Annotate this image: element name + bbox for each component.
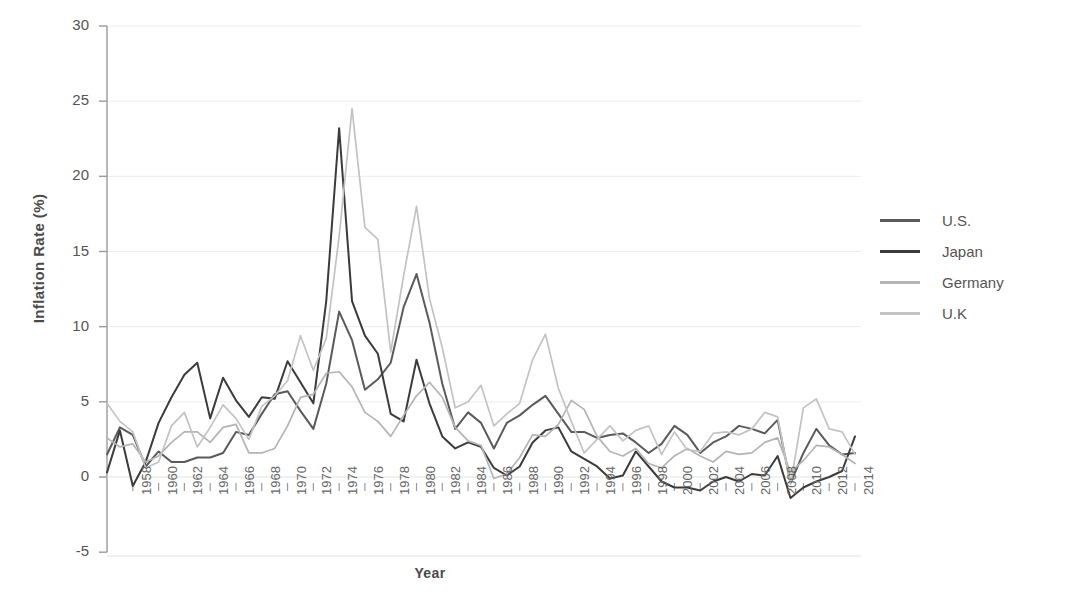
y-tick-label: -5 <box>49 542 89 559</box>
y-tick-label: 15 <box>49 242 89 259</box>
x-tick-label: 1974 <box>345 466 360 495</box>
chart-legend: U.S.JapanGermanyU.K <box>880 205 1004 329</box>
legend-item[interactable]: U.K <box>880 298 1004 329</box>
x-tick-label: 2004 <box>732 466 747 495</box>
x-tick-label: 1982 <box>448 466 463 495</box>
legend-item[interactable]: Germany <box>880 267 1004 298</box>
footer-caption <box>120 596 980 605</box>
x-tick-label: 2006 <box>758 466 773 495</box>
legend-item[interactable]: Japan <box>880 236 1004 267</box>
x-tick-label: 1992 <box>577 466 592 495</box>
legend-swatch-icon <box>880 250 920 253</box>
y-tick-label: 0 <box>49 467 89 484</box>
legend-swatch-icon <box>880 219 920 222</box>
x-tick-label: 1994 <box>603 466 618 495</box>
x-tick-label: 1960 <box>165 466 180 495</box>
x-tick-label: 1966 <box>242 466 257 495</box>
legend-label: Germany <box>942 274 1004 291</box>
x-tick-label: 1958 <box>139 466 154 495</box>
x-tick-label: 2014 <box>861 466 876 495</box>
x-tick-label: 1968 <box>268 466 283 495</box>
legend-label: U.S. <box>942 212 971 229</box>
legend-label: U.K <box>942 305 967 322</box>
x-tick-label: 1976 <box>371 466 386 495</box>
x-tick-label: 1990 <box>551 466 566 495</box>
x-tick-label: 2002 <box>706 466 721 495</box>
x-tick-label: 2010 <box>809 466 824 495</box>
legend-item[interactable]: U.S. <box>880 205 1004 236</box>
series-line-japan <box>107 128 855 498</box>
x-tick-label: 1972 <box>319 466 334 495</box>
x-tick-label: 1962 <box>190 466 205 495</box>
x-tick-label: 1984 <box>474 466 489 495</box>
x-tick-label: 1988 <box>526 466 541 495</box>
x-tick-label: 2000 <box>680 466 695 495</box>
y-tick-label: 5 <box>49 392 89 409</box>
y-tick-label: 20 <box>49 166 89 183</box>
legend-swatch-icon <box>880 281 920 284</box>
y-tick-label: 30 <box>49 16 89 33</box>
series-line-uk <box>107 109 855 485</box>
inflation-line-chart: Inflation Rate (%) Year 302520151050-5 1… <box>0 0 1084 605</box>
y-tick-label: 25 <box>49 91 89 108</box>
y-tick-label: 10 <box>49 317 89 334</box>
x-tick-label: 1964 <box>216 466 231 495</box>
legend-label: Japan <box>942 243 983 260</box>
x-tick-label: 1978 <box>397 466 412 495</box>
x-tick-label: 2012 <box>835 466 850 495</box>
x-tick-label: 1998 <box>655 466 670 495</box>
x-tick-label: 1986 <box>500 466 515 495</box>
x-tick-label: 1996 <box>629 466 644 495</box>
x-tick-label: 1970 <box>294 466 309 495</box>
x-tick-label: 2008 <box>784 466 799 495</box>
legend-swatch-icon <box>880 312 920 315</box>
series-line-us <box>107 274 855 483</box>
x-tick-label: 1980 <box>423 466 438 495</box>
